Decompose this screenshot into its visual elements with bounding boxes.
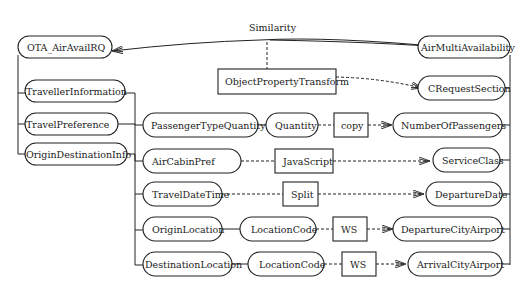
svg-text:ObjectPropertyTransform: ObjectPropertyTransform bbox=[225, 76, 349, 87]
svg-text:AirMultiAvailability: AirMultiAvailability bbox=[420, 42, 515, 53]
transform-ws-destination[interactable]: WS bbox=[342, 252, 376, 276]
node-destinationlocation[interactable]: DestinationLocation bbox=[143, 252, 242, 276]
node-aircabinpref[interactable]: AirCabinPref bbox=[143, 149, 241, 173]
svg-text:WS: WS bbox=[350, 259, 366, 270]
node-origin-locationcode[interactable]: LocationCode bbox=[240, 217, 318, 241]
node-passengertypequantity[interactable]: PassengerTypeQuantity bbox=[143, 113, 266, 137]
svg-text:NumberOfPassengers: NumberOfPassengers bbox=[401, 120, 506, 131]
node-travellerinformation[interactable]: TravellerInformation bbox=[25, 80, 127, 102]
svg-text:TravelPreference: TravelPreference bbox=[26, 119, 110, 130]
svg-text:Split: Split bbox=[291, 189, 314, 200]
svg-text:CRequestSection: CRequestSection bbox=[428, 83, 511, 94]
transform-ws-origin[interactable]: WS bbox=[333, 217, 367, 241]
svg-text:TravelDateTime: TravelDateTime bbox=[152, 189, 230, 200]
similarity-label: Similarity bbox=[249, 22, 297, 33]
svg-text:AirCabinPref: AirCabinPref bbox=[151, 156, 216, 167]
node-traveldatetime[interactable]: TravelDateTime bbox=[143, 182, 230, 206]
svg-text:OriginDestinationInfo: OriginDestinationInfo bbox=[26, 149, 131, 160]
node-departurecityairport[interactable]: DepartureCityAirport bbox=[393, 217, 505, 241]
node-departuredate[interactable]: DepartureDate bbox=[426, 182, 508, 206]
node-origindestinationinfo[interactable]: OriginDestinationInfo bbox=[25, 143, 131, 165]
svg-text:OriginLocation: OriginLocation bbox=[152, 224, 224, 235]
node-ota-airavailrq[interactable]: OTA_AirAvailRQ bbox=[18, 36, 112, 58]
svg-text:TravellerInformation: TravellerInformation bbox=[26, 86, 127, 97]
svg-text:JavaScript: JavaScript bbox=[282, 156, 333, 167]
mapping-diagram: Similarity OTA_AirAvailRQ AirMultiAvaila… bbox=[0, 0, 524, 289]
node-travelpreference[interactable]: TravelPreference bbox=[25, 113, 118, 135]
node-crequestsection[interactable]: CRequestSection bbox=[418, 76, 511, 100]
svg-text:OTA_AirAvailRQ: OTA_AirAvailRQ bbox=[27, 42, 105, 54]
node-airmultiavailability[interactable]: AirMultiAvailability bbox=[418, 36, 515, 58]
transform-javascript[interactable]: JavaScript bbox=[275, 149, 333, 173]
svg-text:LocationCode: LocationCode bbox=[259, 259, 326, 270]
svg-text:copy: copy bbox=[341, 120, 364, 131]
node-numberofpassengers[interactable]: NumberOfPassengers bbox=[393, 113, 506, 137]
svg-text:DepartureDate: DepartureDate bbox=[435, 189, 508, 200]
node-arrivalcityairport[interactable]: ArrivalCityAirport bbox=[408, 252, 504, 276]
transform-split[interactable]: Split bbox=[283, 182, 318, 206]
svg-text:DestinationLocation: DestinationLocation bbox=[145, 259, 242, 270]
svg-text:WS: WS bbox=[341, 224, 357, 235]
node-serviceclass[interactable]: ServiceClass bbox=[433, 148, 504, 172]
transform-objectpropertytransform[interactable]: ObjectPropertyTransform bbox=[218, 69, 349, 94]
node-quantity[interactable]: Quantity bbox=[266, 113, 318, 137]
svg-text:DepartureCityAirport: DepartureCityAirport bbox=[401, 224, 505, 235]
node-destination-locationcode[interactable]: LocationCode bbox=[248, 252, 326, 276]
svg-text:Quantity: Quantity bbox=[275, 120, 317, 131]
transform-copy[interactable]: copy bbox=[334, 113, 368, 137]
svg-text:ServiceClass: ServiceClass bbox=[442, 155, 504, 166]
svg-text:ArrivalCityAirport: ArrivalCityAirport bbox=[416, 259, 504, 270]
node-originlocation[interactable]: OriginLocation bbox=[143, 217, 224, 241]
svg-text:PassengerTypeQuantity: PassengerTypeQuantity bbox=[151, 120, 266, 131]
svg-text:LocationCode: LocationCode bbox=[251, 224, 318, 235]
